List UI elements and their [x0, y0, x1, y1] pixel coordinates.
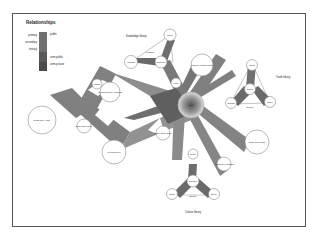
svg-text:Studio: Studio: [249, 64, 256, 66]
svg-text:Logistics: Logistics: [94, 83, 101, 85]
knowledge-library-label: Knowledge library: [126, 34, 147, 38]
culture-library-label: Culture library: [185, 210, 202, 214]
svg-text:Lobby: Lobby: [174, 82, 179, 84]
relationship-diagram: Relationships primary secondary tertiary…: [0, 0, 317, 236]
legend-public: public: [50, 32, 57, 36]
svg-text:Training / Multiple design: Training / Multiple design: [191, 64, 213, 66]
svg-text:News café / Café: News café / Café: [34, 119, 51, 121]
culture-edge-label: Gallery: [189, 195, 197, 198]
svg-text:Theory: Theory: [211, 193, 217, 195]
diagram-title: Relationships: [26, 20, 56, 25]
legend-tertiary: tertiary: [29, 47, 38, 51]
legend: primary secondary tertiary public semi-p…: [25, 32, 65, 71]
svg-text:Theory: Theory: [167, 34, 173, 36]
legend-secondary: secondary: [25, 40, 38, 44]
svg-text:Exhibition: Exhibition: [189, 180, 198, 182]
youth-library-label: Youth library: [276, 75, 291, 79]
svg-text:Reading: Reading: [127, 61, 134, 63]
svg-text:Reading: Reading: [227, 102, 234, 104]
svg-text:Studio: Studio: [169, 193, 176, 195]
svg-text:Technical space / Logistics: Technical space / Logistics: [98, 91, 122, 93]
svg-text:Gallery: Gallery: [247, 88, 253, 90]
svg-text:Reference: Reference: [156, 61, 166, 63]
svg-text:Depot: Depot: [190, 153, 196, 155]
connection-bands: [50, 54, 250, 176]
svg-text:Child area public: Child area public: [249, 141, 266, 143]
svg-text:Auditorium / Workshop: Auditorium / Workshop: [214, 163, 235, 165]
svg-text:Meeting area: Meeting area: [108, 151, 122, 153]
legend-primary: primary: [28, 33, 37, 37]
svg-text:Foyer: Foyer: [188, 104, 193, 106]
svg-text:Theory: Theory: [267, 101, 273, 103]
svg-text:Study / study space: Study / study space: [154, 132, 172, 134]
cluster-youth: Youth library Gallery Studio Gallery Rea…: [226, 60, 292, 110]
youth-edge-label: Gallery: [246, 106, 254, 109]
legend-semi-public: semi-public: [50, 55, 64, 59]
knowledge-edge-label: reading: [146, 51, 155, 54]
svg-text:Book return library: Book return library: [76, 125, 92, 127]
legend-semi-private: semi-private: [50, 62, 65, 66]
